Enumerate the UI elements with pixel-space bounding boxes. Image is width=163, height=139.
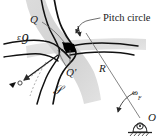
common-normal-arrow <box>78 26 80 36</box>
surface-p-label: ᵋ9 <box>16 34 29 46</box>
radius-label: R <box>99 63 106 74</box>
pitch-circle-leader <box>76 18 100 33</box>
surface-s-label: 𝒮 <box>53 84 62 96</box>
angular-velocity-label: ωF <box>132 88 141 99</box>
center-o-label: O <box>148 112 156 123</box>
point-q-prime-label: Q' <box>66 67 76 78</box>
gear-tooth-contact-figure: Pitch circle Q Q' ᵋ9 𝒮 R ωF O <box>0 0 163 139</box>
omega-subscript: F <box>138 95 141 101</box>
fixed-pivot-bearing <box>128 123 152 136</box>
velocity-tick-marker <box>9 81 22 88</box>
point-q-label: Q <box>30 14 38 25</box>
pitch-circle-label: Pitch circle <box>103 13 151 24</box>
